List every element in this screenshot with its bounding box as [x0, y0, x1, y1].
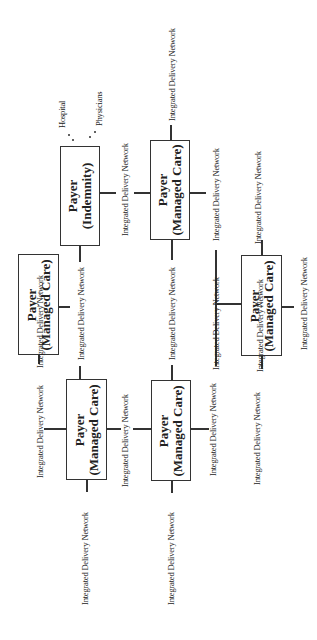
connector-line [282, 306, 294, 308]
connector-line [191, 428, 209, 430]
connector-line [100, 192, 116, 194]
network-label: Integrated Delivery Network [166, 512, 176, 605]
connector-line [59, 306, 70, 308]
network-label: Integrated Delivery Network [252, 392, 262, 485]
connector-dot [72, 139, 74, 141]
connector-dot [68, 134, 70, 136]
physicians-label: Physicians [94, 92, 104, 126]
network-label: Integrated Delivery Network [76, 267, 86, 360]
connector-line [171, 481, 173, 493]
connector-line [170, 125, 172, 140]
network-label: Integrated Delivery Network [120, 143, 130, 236]
network-label: Integrated Delivery Network [35, 385, 45, 478]
box-title: Payer [65, 180, 80, 212]
box-title: Payer [72, 413, 87, 445]
connector-line [44, 428, 66, 430]
connector-dot [89, 136, 91, 138]
network-label: Integrated Delivery Network [255, 279, 265, 372]
connector-line [79, 246, 81, 262]
payer-managed-care-box: Payer(Managed Care) [150, 140, 190, 240]
box-title: Payer [155, 174, 170, 206]
payer-managed-care-box: Payer(Managed Care) [151, 380, 191, 481]
connector-line [190, 192, 206, 194]
connector-line [79, 366, 81, 379]
connector-line [107, 428, 121, 430]
network-label: Integrated Delivery Network [167, 267, 177, 360]
network-label: Integrated Delivery Network [253, 151, 263, 244]
connector-line [171, 240, 173, 260]
payer-managed-care-box: Payer(Managed Care) [66, 379, 107, 480]
hospital-label: Hospital [57, 101, 67, 128]
network-label: Integrated Delivery Network [211, 277, 221, 370]
network-label: Integrated Delivery Network [211, 148, 221, 241]
box-subtitle: (Managed Care) [86, 384, 101, 475]
connector-dot [94, 131, 96, 133]
payer-indemnity-box: Payer(Indemnity) [60, 146, 100, 246]
box-subtitle: (Indemnity) [79, 163, 94, 229]
connector-line [133, 428, 151, 430]
connector-line [134, 192, 150, 194]
box-subtitle: (Managed Care) [170, 385, 185, 476]
network-label: Integrated Delivery Network [120, 394, 130, 487]
network-label: Integrated Delivery Network [167, 28, 177, 121]
box-subtitle: (Managed Care) [169, 144, 184, 235]
box-title: Payer [156, 414, 171, 446]
network-label: Integrated Delivery Network [299, 257, 309, 350]
network-label: Integrated Delivery Network [208, 383, 218, 476]
network-label: Integrated Delivery Network [35, 275, 45, 368]
connector-line [171, 365, 173, 380]
network-label: Integrated Delivery Network [80, 512, 90, 605]
connector-line [86, 480, 88, 492]
